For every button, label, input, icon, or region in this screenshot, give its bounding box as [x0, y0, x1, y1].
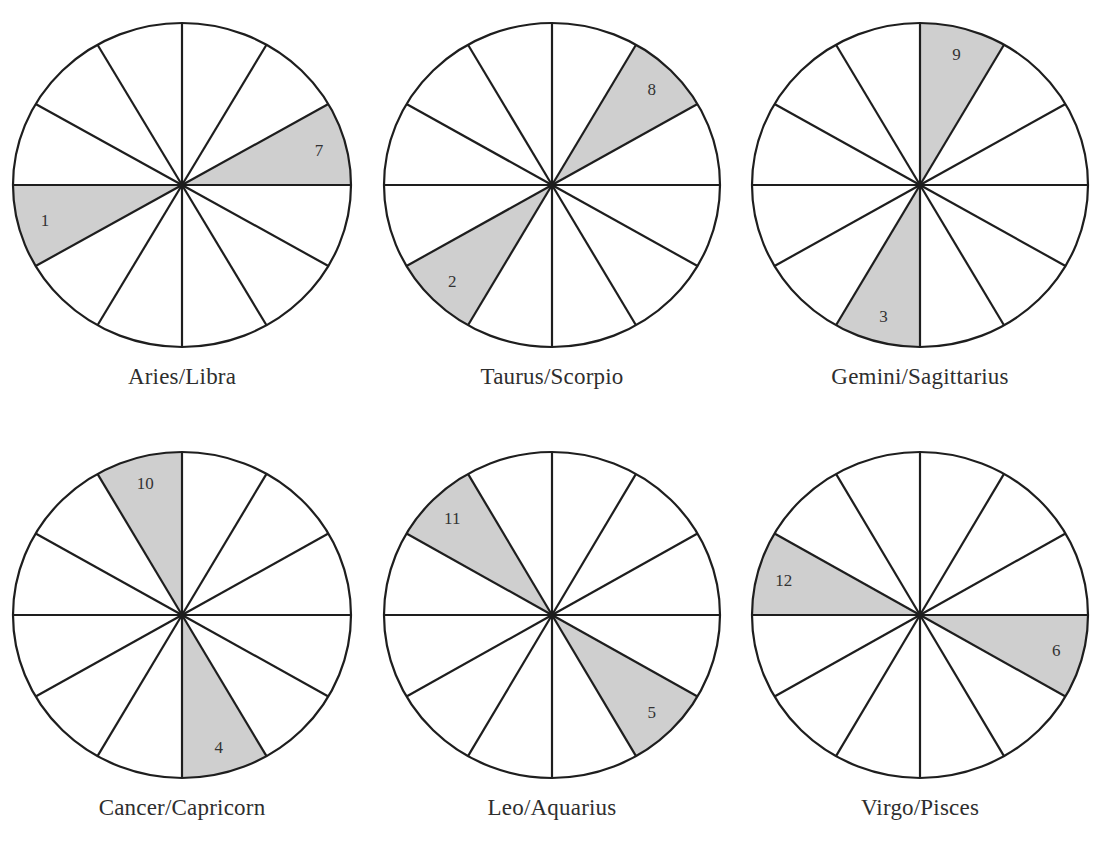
house-number-12: 12 [775, 571, 792, 590]
wheel-center-dot [179, 612, 185, 618]
wheel-gemini-sagittarius: 39 [752, 23, 1088, 347]
wheel-center-dot [179, 182, 185, 188]
house-number-10: 10 [137, 474, 154, 493]
wheel-aries-libra: 17 [13, 23, 351, 347]
house-number-11: 11 [444, 509, 460, 528]
wheel-center-dot [549, 612, 555, 618]
house-number-3: 3 [879, 307, 888, 326]
wheel-center-dot [917, 612, 923, 618]
house-number-1: 1 [41, 211, 50, 230]
house-number-5: 5 [648, 703, 657, 722]
wheel-leo-aquarius: 511 [384, 452, 720, 778]
wheel-label-taurus-scorpio: Taurus/Scorpio [480, 364, 623, 390]
wheel-taurus-scorpio: 28 [384, 23, 720, 347]
wheel-label-virgo-pisces: Virgo/Pisces [861, 795, 979, 821]
house-number-2: 2 [448, 272, 457, 291]
wheels-canvas: 172839410511612 [0, 0, 1108, 851]
house-number-4: 4 [214, 738, 223, 757]
wheel-label-leo-aquarius: Leo/Aquarius [488, 795, 617, 821]
wheel-cancer-capricorn: 410 [13, 452, 351, 778]
house-number-9: 9 [952, 45, 961, 64]
wheel-center-dot [917, 182, 923, 188]
wheel-label-cancer-capricorn: Cancer/Capricorn [99, 795, 266, 821]
wheel-center-dot [549, 182, 555, 188]
wheel-label-gemini-sagittarius: Gemini/Sagittarius [831, 364, 1008, 390]
wheel-virgo-pisces: 612 [752, 452, 1088, 778]
wheel-label-aries-libra: Aries/Libra [128, 364, 236, 390]
house-number-8: 8 [648, 80, 657, 99]
house-number-7: 7 [315, 141, 324, 160]
house-number-6: 6 [1052, 641, 1061, 660]
